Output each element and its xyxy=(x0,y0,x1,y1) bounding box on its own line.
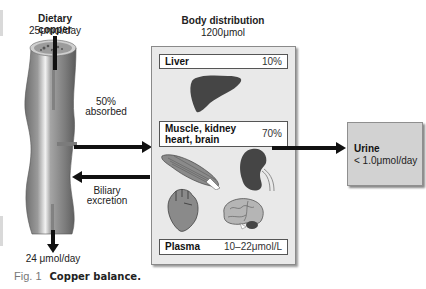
mkhb-label-line2: heart, brain xyxy=(165,134,219,145)
figure-number: Fig. 1 xyxy=(14,270,42,282)
mkhb-label-line1: Muscle, kidney xyxy=(165,123,236,134)
absorption-arrow xyxy=(74,141,154,153)
distribution-title: Body distribution xyxy=(160,15,286,26)
absorption-label: absorbed xyxy=(80,106,132,117)
body-distribution-box: Liver 10% Muscle, kidney heart, brain 70… xyxy=(151,46,296,265)
mkhb-percent: 70% xyxy=(262,128,282,139)
intake-arrow xyxy=(48,36,62,76)
fecal-output-value: 24 μmol/day xyxy=(18,253,88,264)
urine-box: Urine < 1.0μmol/day xyxy=(347,122,423,186)
muscle-kidney-heart-brain-compartment: Muscle, kidney heart, brain 70% xyxy=(159,121,288,147)
heart-icon xyxy=(166,187,204,233)
plasma-compartment: Plasma 10–22μmol/L xyxy=(159,239,288,255)
fecal-output-arrow xyxy=(46,230,60,254)
excretion-label: excretion xyxy=(82,195,132,206)
brain-icon xyxy=(220,197,266,231)
distribution-total: 1200μmol xyxy=(160,27,286,38)
biliary-excretion-arrow xyxy=(72,171,152,183)
plasma-label: Plasma xyxy=(165,241,200,252)
muscle-icon xyxy=(160,150,222,190)
liver-icon xyxy=(188,73,244,115)
plasma-value: 10–22μmol/L xyxy=(224,241,282,252)
urine-value: < 1.0μmol/day xyxy=(354,155,417,166)
liver-compartment: Liver 10% xyxy=(159,54,288,69)
urine-arrow xyxy=(272,142,348,154)
intake-rate: 25μmol/day xyxy=(20,25,90,36)
liver-label: Liver xyxy=(165,56,189,67)
figure-title: Copper balance. xyxy=(50,271,141,282)
urine-title: Urine xyxy=(354,143,380,154)
figure-caption: Fig. 1Copper balance. xyxy=(14,270,141,282)
edge-bar-top xyxy=(0,10,3,36)
liver-percent: 10% xyxy=(262,56,282,67)
